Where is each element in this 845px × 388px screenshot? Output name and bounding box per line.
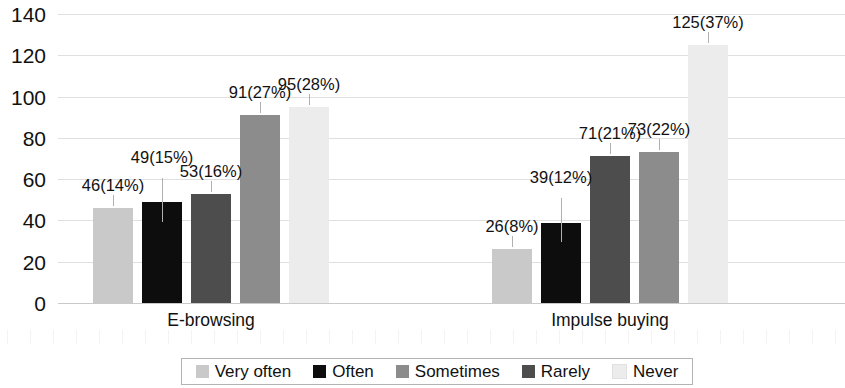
legend-swatch-icon [612, 364, 627, 379]
legend-label: Rarely [541, 363, 590, 380]
label-connector-tick [113, 195, 114, 206]
legend-item[interactable]: Rarely [522, 363, 590, 380]
y-tick-label: 0 [0, 293, 46, 314]
legend-label: Never [633, 363, 678, 380]
label-connector-tick [211, 181, 212, 192]
bar-value-label: 53(16%) [180, 163, 242, 180]
legend-swatch-icon [522, 365, 535, 378]
bar-value-label: 46(14%) [82, 177, 144, 194]
bar [240, 115, 280, 303]
label-connector-tick [659, 139, 660, 150]
label-connector-tick [708, 32, 709, 43]
label-connector-tick [260, 102, 261, 113]
y-tick-label: 60 [0, 169, 46, 190]
bar [688, 45, 728, 303]
y-tick-label: 40 [0, 210, 46, 231]
legend: Very oftenOftenSometimesRarelyNever [181, 358, 693, 385]
y-tick-label: 100 [0, 87, 46, 108]
legend-label: Very often [215, 363, 292, 380]
legend-swatch-icon [196, 365, 209, 378]
label-connector-tick [561, 198, 562, 242]
axis-baseline [58, 303, 845, 304]
legend-item[interactable]: Often [313, 363, 374, 380]
label-connector-tick [162, 178, 163, 222]
legend-item[interactable]: Very often [196, 363, 292, 380]
bar-value-label: 39(12%) [530, 169, 592, 186]
bar [93, 208, 133, 303]
legend-label: Often [332, 363, 374, 380]
y-tick-label: 80 [0, 128, 46, 149]
y-tick-label: 20 [0, 252, 46, 273]
scan-artifact [0, 330, 845, 344]
legend-swatch-icon [313, 365, 326, 378]
bar [590, 156, 630, 303]
legend-label: Sometimes [415, 363, 500, 380]
bar-value-label: 73(22%) [628, 121, 690, 138]
bar [639, 152, 679, 303]
bar-value-label: 95(28%) [278, 76, 340, 93]
x-category-label: E-browsing [167, 312, 255, 330]
bar-value-label: 125(37%) [672, 14, 744, 31]
bar-chart: 140120100806040200 46(14%)49(15%)53(16%)… [0, 0, 845, 388]
bar [191, 194, 231, 303]
label-connector-tick [512, 236, 513, 247]
y-tick-label: 140 [0, 4, 46, 25]
y-tick-label: 120 [0, 45, 46, 66]
legend-item[interactable]: Never [612, 363, 678, 380]
bar [289, 107, 329, 303]
legend-swatch-icon [396, 365, 409, 378]
x-category-label: Impulse buying [551, 312, 669, 330]
label-connector-tick [610, 143, 611, 154]
bar-value-label: 26(8%) [485, 218, 538, 235]
bar [492, 249, 532, 303]
label-connector-tick [309, 94, 310, 105]
legend-item[interactable]: Sometimes [396, 363, 500, 380]
